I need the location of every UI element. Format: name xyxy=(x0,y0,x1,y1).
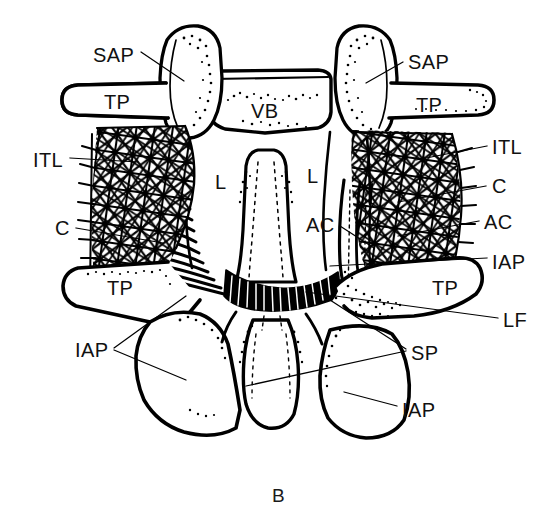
label-itl-left: ITL xyxy=(33,150,63,170)
label-iap-right-upper: IAP xyxy=(492,252,525,272)
label-lf: LF xyxy=(503,310,527,330)
label-iap-left: IAP xyxy=(75,340,108,360)
label-tp-left-lower: TP xyxy=(107,278,133,298)
label-lamina-right: L xyxy=(307,166,319,186)
label-vb: VB xyxy=(251,101,278,121)
lumbar-spine-line-drawing xyxy=(0,0,558,521)
superior-articular-process-right xyxy=(335,26,397,138)
label-sap-left: SAP xyxy=(93,45,134,65)
label-ac-right: AC xyxy=(484,212,513,232)
label-sp: SP xyxy=(411,343,438,363)
label-sap-right: SAP xyxy=(408,52,449,72)
label-c-right: C xyxy=(492,176,507,196)
label-iap-right-lower: IAP xyxy=(402,400,435,420)
superior-articular-process-left xyxy=(160,26,222,138)
label-ac-center: AC xyxy=(306,215,335,235)
panel-letter-b: B xyxy=(272,486,285,505)
label-tp-right-upper: TP xyxy=(416,95,442,115)
label-tp-left-upper: TP xyxy=(104,92,130,112)
label-tp-right-lower: TP xyxy=(432,278,458,298)
label-itl-right: ITL xyxy=(492,137,522,157)
label-lamina-left: L xyxy=(215,172,227,192)
spinous-process-lower xyxy=(243,316,298,428)
label-c-left: C xyxy=(55,218,70,238)
anatomical-figure: SAP TP VB SAP TP ITL ITL L L C C AC AC I… xyxy=(0,0,558,521)
spinous-process-upper xyxy=(236,150,296,282)
